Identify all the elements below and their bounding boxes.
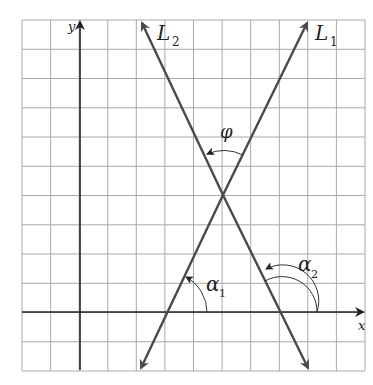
line-L2-label: L — [156, 21, 170, 45]
alpha1-symbol: α — [206, 272, 220, 296]
line-L2-subscript: 2 — [172, 35, 180, 49]
line-L1-label: L — [314, 21, 328, 45]
alpha2-symbol: α — [298, 252, 312, 276]
alpha1-arc — [186, 277, 207, 312]
coordinate-diagram: x y L 1 L 2 α 1 α 2 — [0, 0, 373, 385]
alpha2-subscript: 2 — [311, 268, 318, 281]
x-axis-label: x — [358, 318, 366, 333]
alpha1-subscript: 1 — [219, 287, 226, 300]
phi-symbol: φ — [220, 121, 233, 142]
grid — [22, 20, 365, 371]
diagram-canvas: x y L 1 L 2 α 1 α 2 — [0, 0, 373, 385]
line-L1-subscript: 1 — [330, 35, 338, 49]
y-axis-label: y — [67, 19, 76, 34]
angle-alpha2: α 2 — [265, 252, 319, 312]
angle-phi: φ — [207, 121, 243, 155]
angle-alpha1: α 1 — [186, 272, 226, 312]
phi-arc — [207, 151, 243, 155]
